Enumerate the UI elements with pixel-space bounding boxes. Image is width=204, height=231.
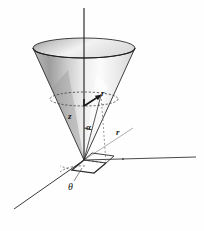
label-r-radius: r <box>101 89 105 98</box>
label-theta: θ <box>68 182 73 192</box>
x-axis-tick <box>122 158 124 160</box>
label-z: z <box>68 112 72 121</box>
figure-canvas: z α r r θ <box>0 0 204 231</box>
label-alpha: α <box>86 123 91 132</box>
x-axis-line <box>84 157 196 160</box>
theta-edge-dashed <box>60 166 72 170</box>
ground-parallelogram <box>84 153 114 163</box>
y-axis-line <box>14 160 84 209</box>
coordinate-cone-diagram <box>0 0 204 231</box>
label-r-ground: r <box>116 128 120 137</box>
